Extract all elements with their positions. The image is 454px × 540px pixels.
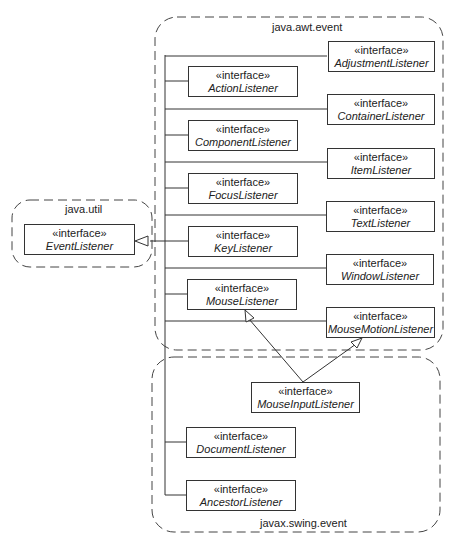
stereotype: «interface» bbox=[329, 44, 434, 57]
interface-item-listener[interactable]: «interface» ItemListener bbox=[327, 148, 435, 179]
interface-name: WindowListener bbox=[327, 270, 433, 283]
generalization-arrowhead bbox=[135, 236, 148, 246]
interface-name: MouseMotionListener bbox=[327, 323, 434, 336]
interface-focus-listener[interactable]: «interface» FocusListener bbox=[188, 173, 298, 204]
package-label-util: java.util bbox=[65, 203, 102, 215]
stereotype: «interface» bbox=[252, 385, 359, 398]
interface-name: ActionListener bbox=[189, 82, 297, 95]
interface-name: EventListener bbox=[25, 240, 134, 253]
stereotype: «interface» bbox=[188, 282, 296, 295]
interface-name: MouseListener bbox=[188, 295, 296, 308]
package-label-swing: javax.swing.event bbox=[260, 517, 347, 529]
interface-adjustment-listener[interactable]: «interface» AdjustmentListener bbox=[328, 41, 435, 72]
stereotype: «interface» bbox=[328, 97, 434, 110]
stereotype: «interface» bbox=[327, 204, 434, 217]
stereotype: «interface» bbox=[187, 483, 295, 496]
interface-name: TextListener bbox=[327, 217, 434, 230]
interface-mouse-listener[interactable]: «interface» MouseListener bbox=[187, 279, 297, 310]
stereotype: «interface» bbox=[189, 229, 297, 242]
interface-name: ItemListener bbox=[328, 164, 434, 177]
package-label-awt: java.awt.event bbox=[272, 21, 342, 33]
interface-key-listener[interactable]: «interface» KeyListener bbox=[188, 226, 298, 257]
interface-mouse-motion-listener[interactable]: «interface» MouseMotionListener bbox=[326, 307, 435, 338]
stereotype: «interface» bbox=[187, 430, 295, 443]
interface-name: ComponentListener bbox=[189, 136, 297, 149]
interface-name: FocusListener bbox=[189, 189, 297, 202]
stereotype: «interface» bbox=[189, 69, 297, 82]
interface-name: AncestorListener bbox=[187, 496, 295, 509]
interface-event-listener[interactable]: «interface» EventListener bbox=[24, 224, 135, 255]
interface-window-listener[interactable]: «interface» WindowListener bbox=[326, 254, 434, 285]
interface-name: ContainerListener bbox=[328, 110, 434, 123]
stereotype: «interface» bbox=[25, 227, 134, 240]
interface-name: DocumentListener bbox=[187, 443, 295, 456]
stereotype: «interface» bbox=[328, 151, 434, 164]
interface-action-listener[interactable]: «interface» ActionListener bbox=[188, 66, 298, 97]
interface-name: KeyListener bbox=[189, 242, 297, 255]
interface-name: AdjustmentListener bbox=[329, 57, 434, 70]
interface-text-listener[interactable]: «interface» TextListener bbox=[326, 201, 435, 232]
interface-mouse-input-listener[interactable]: «interface» MouseInputListener bbox=[251, 382, 360, 413]
stereotype: «interface» bbox=[327, 257, 433, 270]
stereotype: «interface» bbox=[189, 123, 297, 136]
stereotype: «interface» bbox=[189, 176, 297, 189]
stereotype: «interface» bbox=[327, 310, 434, 323]
interface-container-listener[interactable]: «interface» ContainerListener bbox=[327, 94, 435, 125]
interface-document-listener[interactable]: «interface» DocumentListener bbox=[186, 427, 296, 458]
interface-ancestor-listener[interactable]: «interface» AncestorListener bbox=[186, 480, 296, 511]
interface-name: MouseInputListener bbox=[252, 398, 359, 411]
interface-component-listener[interactable]: «interface» ComponentListener bbox=[188, 120, 298, 151]
